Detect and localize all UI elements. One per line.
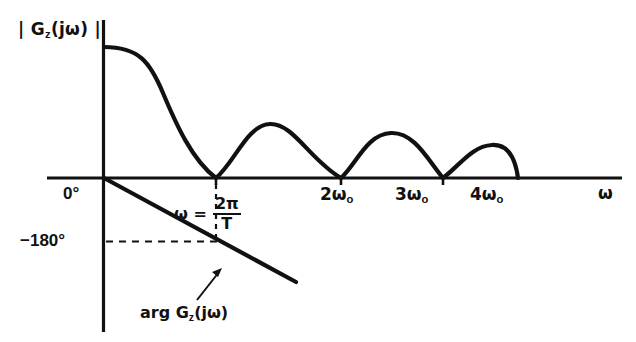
omega-equals-lead: ω = — [174, 206, 207, 222]
x-tick-label-2omega0: 2ωo — [320, 186, 353, 205]
phase-curve-annotation: arg Gz(jω) — [140, 305, 228, 323]
fraction-denominator: T — [213, 213, 241, 232]
x-tick-3omega0-main: 3ω — [395, 184, 422, 204]
x-tick-4omega0-subscript: o — [497, 193, 504, 205]
omega-equals-2pi-over-T-label: ω = 2π T — [174, 196, 241, 232]
phase-zero-label: 0° — [63, 185, 79, 202]
x-axis-label: ω — [598, 185, 613, 202]
phase-annotation-rest: (jω) — [194, 303, 228, 322]
x-tick-label-4omega0: 4ωo — [470, 186, 503, 205]
annotation-arrow-head — [212, 268, 222, 277]
x-tick-3omega0-subscript: o — [422, 193, 429, 205]
x-tick-label-3omega0: 3ωo — [395, 186, 428, 205]
annotation-arrow-line — [197, 272, 219, 300]
phase-annotation-main: arg G — [140, 303, 189, 322]
phase-minus180-label: −180° — [20, 232, 65, 249]
x-tick-2omega0-subscript: o — [347, 193, 354, 205]
y-axis-label-rest: (jω) | — [51, 19, 101, 39]
zoh-frequency-response-figure: | Gz(jω) | 0° −180° ω = 2π T 2ωo 3ωo 4ωo… — [0, 0, 636, 342]
fraction-numerator: 2π — [213, 196, 241, 213]
magnitude-curve — [104, 47, 518, 178]
y-axis-label: | Gz(jω) | — [18, 21, 101, 40]
x-tick-2omega0-main: 2ω — [320, 184, 347, 204]
fraction-2pi-over-T: 2π T — [213, 196, 241, 232]
plot-canvas — [0, 0, 636, 342]
x-tick-4omega0-main: 4ω — [470, 184, 497, 204]
y-axis-label-main: | G — [18, 19, 45, 39]
